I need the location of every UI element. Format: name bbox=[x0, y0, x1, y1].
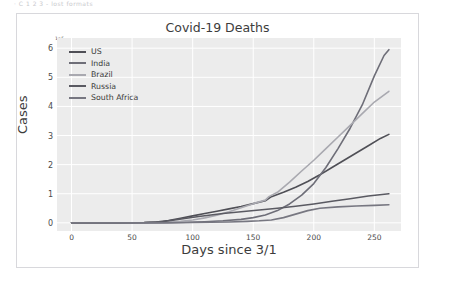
legend-color-swatch bbox=[69, 62, 86, 64]
x-tick-label: 250 bbox=[367, 233, 381, 242]
x-tick-label: 50 bbox=[127, 233, 137, 242]
legend-item[interactable]: Brazil bbox=[69, 69, 138, 81]
legend-color-swatch bbox=[69, 85, 86, 87]
y-axis-ticks: 0123456 bbox=[25, 38, 53, 231]
x-tick-label: 0 bbox=[69, 233, 74, 242]
legend-label: US bbox=[91, 47, 102, 56]
series-line bbox=[72, 91, 389, 223]
x-axis-label: Days since 3/1 bbox=[57, 242, 401, 257]
legend-item[interactable]: South Africa bbox=[69, 92, 138, 104]
chart-title: Covid-19 Deaths bbox=[17, 20, 418, 35]
legend-label: India bbox=[91, 59, 110, 68]
legend-color-swatch bbox=[69, 74, 86, 76]
clipped-top-text: · C 1 2 3 - lost formats bbox=[14, 0, 134, 7]
legend-color-swatch bbox=[69, 97, 86, 99]
series-line bbox=[72, 134, 389, 223]
x-tick-label: 150 bbox=[246, 233, 260, 242]
legend-item[interactable]: US bbox=[69, 46, 138, 58]
x-tick-label: 200 bbox=[307, 233, 321, 242]
y-tick-label: 4 bbox=[27, 102, 53, 111]
legend-color-swatch bbox=[69, 51, 86, 53]
x-tick-label: 100 bbox=[185, 233, 199, 242]
y-tick-label: 3 bbox=[27, 131, 53, 140]
legend-label: Brazil bbox=[91, 70, 113, 79]
y-tick-label: 2 bbox=[27, 160, 53, 169]
legend-item[interactable]: Russia bbox=[69, 81, 138, 93]
chart-figure: Covid-19 Deaths 1e5 Cases 0123456 050100… bbox=[16, 13, 419, 268]
y-tick-label: 1 bbox=[27, 189, 53, 198]
y-tick-label: 0 bbox=[27, 218, 53, 227]
legend-item[interactable]: India bbox=[69, 58, 138, 70]
y-tick-label: 5 bbox=[27, 73, 53, 82]
chart-legend: USIndiaBrazilRussiaSouth Africa bbox=[67, 44, 142, 106]
legend-label: South Africa bbox=[91, 93, 138, 102]
y-tick-label: 6 bbox=[27, 44, 53, 53]
legend-label: Russia bbox=[91, 82, 116, 91]
